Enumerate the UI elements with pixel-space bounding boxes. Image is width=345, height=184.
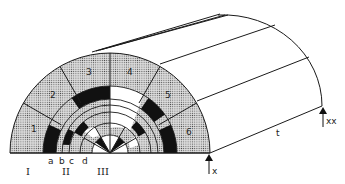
back-arc (218, 15, 322, 106)
ring-label-b: b (59, 156, 65, 166)
x-marker-label: x (212, 166, 218, 176)
length-label: t (276, 128, 280, 138)
sector-label-5: 5 (165, 90, 171, 100)
arrow-up-icon (319, 107, 327, 114)
surface-line-60 (160, 25, 275, 64)
x-marker: x (205, 154, 218, 176)
sector-label-1: 1 (31, 124, 37, 134)
zone-label-ii: II (62, 166, 70, 177)
ring-label-d: d (82, 156, 88, 166)
half-cylinder-diagram: 1 2 3 4 5 6 a b c d I II III x xx t (0, 0, 345, 184)
sector-label-3: 3 (86, 67, 92, 77)
zone-label-i: I (26, 166, 30, 177)
sector-label-2: 2 (50, 90, 56, 100)
xx-marker-label: xx (326, 116, 337, 126)
surface-line-30 (197, 57, 309, 101)
ring-label-c: c (69, 156, 74, 166)
arrow-up-icon (205, 154, 213, 161)
sector-label-4: 4 (127, 67, 133, 77)
front-face: 1 2 3 4 5 6 (10, 53, 210, 153)
zone-label-iii: III (97, 166, 109, 177)
top-edge-3 (100, 15, 228, 50)
ring-labels: a b c d (48, 156, 88, 166)
bottom-edge (210, 106, 322, 153)
sector-label-6: 6 (186, 127, 192, 137)
xx-marker: xx (319, 107, 337, 127)
ring-label-a: a (48, 156, 54, 166)
zone-labels: I II III (26, 166, 109, 177)
